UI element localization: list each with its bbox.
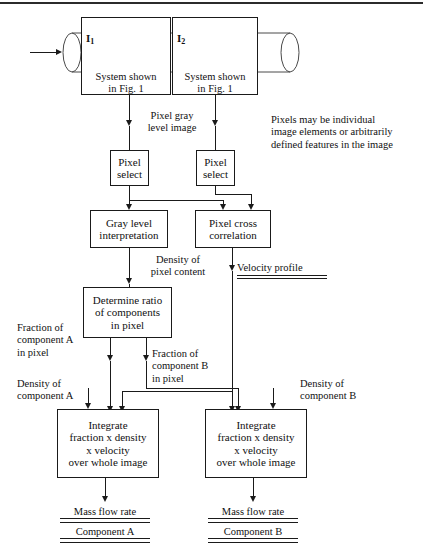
- conn-pixelselect-left-down: [129, 186, 130, 200]
- system-shown-right-text: System shown in Fig. 1: [172, 71, 258, 96]
- arrowhead-determineratio-in: [126, 278, 132, 284]
- arrowhead-resultA: [102, 496, 108, 502]
- result-mass-flow-rate-a: Mass flow rate Component A: [60, 506, 150, 546]
- plane-label-i2-subscript: 2: [181, 37, 185, 46]
- conn-crosscorr-down-b: [232, 271, 233, 391]
- flow-inlet-arrow: [56, 49, 62, 55]
- arrowhead-fractionB-mid: [143, 355, 149, 361]
- conn-fractionA-down-b: [110, 361, 111, 409]
- bus-velocity-to-integrateA: [122, 391, 232, 392]
- system-shown-left-text: System shown in Fig. 1: [81, 71, 171, 96]
- conn-i2-to-pixelselect-right: [215, 95, 216, 122]
- result-a-rule-2: [60, 540, 150, 543]
- result-b-rule-1: [208, 520, 298, 523]
- conn-pixelselect-right-down: [215, 186, 216, 194]
- result-a-line2: Component A: [60, 526, 150, 539]
- box-integrate-component-a: Integrate fraction x density x velocity …: [57, 409, 159, 478]
- conn-i1-to-pixelselect-left-b: [129, 126, 130, 150]
- label-fraction-component-b: Fraction of component B in pixel: [152, 348, 232, 385]
- page-top-rule: [0, 2, 423, 4]
- result-b-line1: Mass flow rate: [208, 506, 298, 519]
- label-density-of-pixel-content: Density of pixel content: [135, 254, 221, 279]
- note-pixels-may-be-individual: Pixels may be individual image elements …: [271, 114, 423, 151]
- label-velocity-profile: Velocity profile: [237, 262, 327, 274]
- arrowhead-resultB: [250, 496, 256, 502]
- box-pixel-cross-correlation: Pixel cross correlation: [195, 210, 271, 248]
- result-b-rule-2: [208, 540, 298, 543]
- label-velocity-profile-group: Velocity profile: [237, 262, 327, 279]
- label-density-component-b: Density of component B: [300, 378, 386, 403]
- box-pixel-select-left: Pixel select: [110, 150, 149, 186]
- bus-pixelselect-left: [129, 200, 223, 201]
- result-b-line2: Component B: [208, 526, 298, 539]
- label-fraction-component-a: Fraction of component A in pixel: [17, 322, 97, 359]
- conn-graylevel-down: [129, 248, 130, 280]
- diagram-canvas: I1 I2 System shown in Fig. 1 System show…: [0, 0, 423, 553]
- box-pixel-select-right: Pixel select: [196, 150, 235, 186]
- result-a-line1: Mass flow rate: [60, 506, 150, 519]
- conn-fractionB-over: [146, 388, 238, 389]
- plane-label-i1-subscript: 1: [90, 37, 94, 46]
- label-pixel-gray-level-image: Pixel gray level image: [134, 110, 210, 135]
- conn-i2-to-pixelselect-right-b: [215, 126, 216, 150]
- box-integrate-component-b: Integrate fraction x density x velocity …: [205, 409, 307, 478]
- conn-pixelselect-right-over: [215, 194, 251, 195]
- label-density-component-a: Density of component A: [17, 378, 103, 403]
- box-gray-level-interpretation: Gray level interpretation: [90, 210, 168, 248]
- conn-fractionB-down-b: [146, 361, 147, 388]
- arrowhead-velocity-marker: [229, 265, 235, 271]
- arrowhead-i1-pixelselect-left: [126, 120, 132, 126]
- flow-inlet-line: [30, 52, 58, 53]
- result-mass-flow-rate-b: Mass flow rate Component B: [208, 506, 298, 546]
- arrowhead-i2-pixelselect-right: [212, 120, 218, 126]
- velocity-profile-underline-2: [237, 276, 327, 279]
- conn-i1-to-pixelselect-left: [129, 95, 130, 122]
- result-a-rule-1: [60, 520, 150, 523]
- arrowhead-fractionA-mid: [107, 355, 113, 361]
